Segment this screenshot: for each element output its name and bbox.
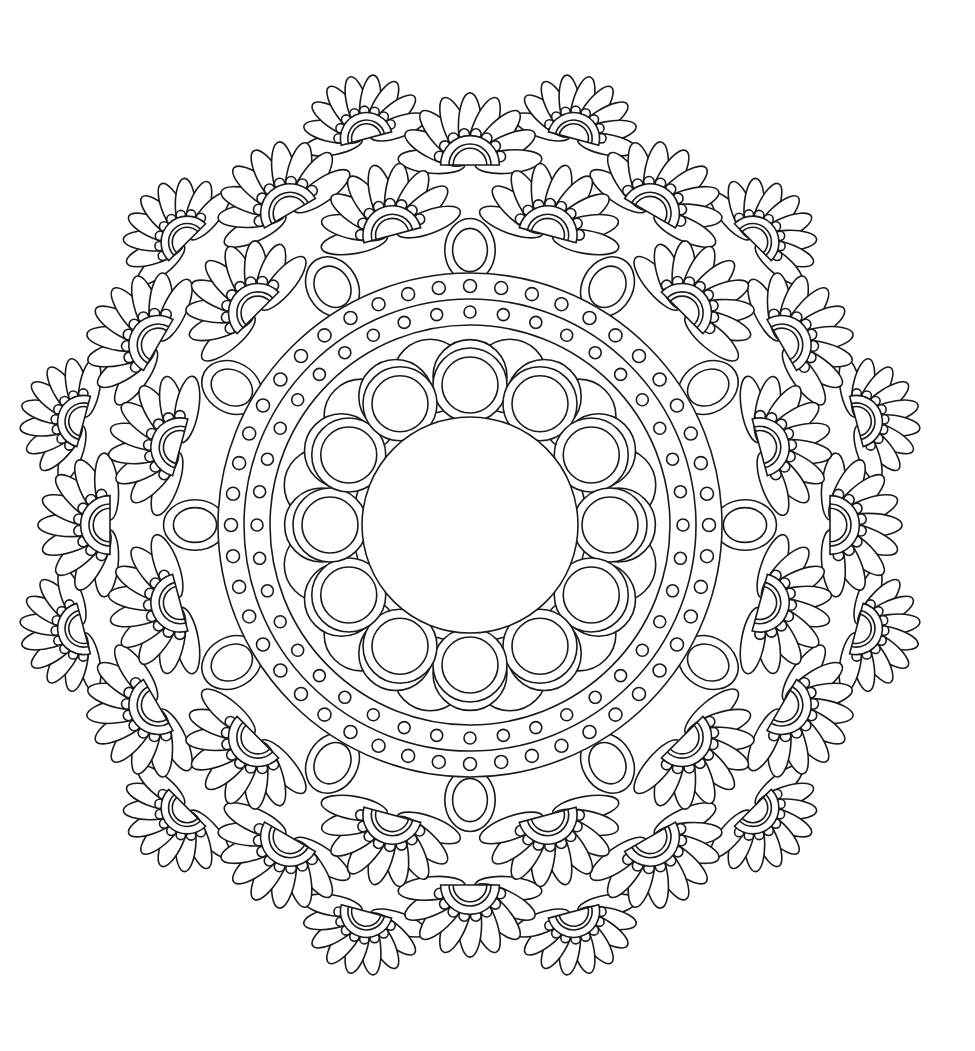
band-dot [295, 687, 308, 700]
band-dot [583, 725, 596, 738]
band-dot [561, 709, 573, 721]
band-dot [609, 708, 622, 721]
band-dot [372, 298, 385, 311]
front-circle-inner [512, 618, 568, 674]
teardrop-inner [453, 778, 488, 821]
band-dot [653, 373, 666, 386]
center-hole [362, 417, 578, 633]
band-dot [589, 347, 601, 359]
band-dot [254, 552, 266, 564]
front-circle-inner [442, 637, 498, 693]
band-dot [677, 519, 689, 531]
band-dot [694, 580, 707, 593]
band-dot [257, 399, 270, 412]
band-dot [313, 670, 325, 682]
band-dot [636, 644, 648, 656]
mandala-canvas [0, 0, 975, 1051]
band-dot [667, 585, 679, 597]
band-dot [670, 638, 683, 651]
band-dot [589, 691, 601, 703]
band-dot [233, 457, 246, 470]
band-dot [243, 610, 256, 623]
band-dot [372, 739, 385, 752]
band-dot [251, 519, 263, 531]
band-dot [495, 282, 508, 295]
scallop [397, 93, 543, 176]
scallop [819, 452, 902, 598]
band-dot [525, 749, 538, 762]
band-dot [398, 722, 410, 734]
scallop [510, 890, 638, 976]
teardrop-inner [173, 508, 216, 543]
band-dot [632, 350, 645, 363]
band-dot [530, 316, 542, 328]
front-circle-inner [563, 427, 619, 483]
scallop [302, 890, 430, 976]
band-dot [694, 457, 707, 470]
band-dot [227, 550, 240, 563]
scallop [19, 357, 105, 485]
band-dot [674, 486, 686, 498]
band-dot [530, 722, 542, 734]
band-dot [233, 580, 246, 593]
band-dot [555, 298, 568, 311]
band-dot [274, 664, 287, 677]
band-dot [318, 708, 331, 721]
band-dot [254, 486, 266, 498]
band-dot [561, 329, 573, 341]
front-circle-inner [321, 567, 377, 623]
band-dot [274, 616, 286, 628]
band-dot [615, 368, 627, 380]
band-dot [261, 585, 273, 597]
front-circle-inner [372, 376, 428, 432]
front-circle-inner [321, 427, 377, 483]
scallop [510, 74, 638, 160]
band-dot [674, 552, 686, 564]
band-dot [497, 729, 509, 741]
band-dot [700, 550, 713, 563]
band-dot [497, 309, 509, 321]
band-dot [344, 725, 357, 738]
band-dot [636, 394, 648, 406]
scallop [835, 565, 921, 693]
band-dot [432, 282, 445, 295]
scallop [19, 565, 105, 693]
band-dot [398, 316, 410, 328]
band-dot [609, 329, 622, 342]
band-dot [313, 368, 325, 380]
band-dot [464, 732, 476, 744]
band-dot [339, 347, 351, 359]
band-dot [431, 729, 443, 741]
band-dot [225, 519, 238, 532]
front-circle-inner [563, 567, 619, 623]
band-dot [632, 687, 645, 700]
scallop [835, 357, 921, 485]
band-dot [464, 758, 477, 771]
mandala-artwork [0, 0, 975, 1051]
front-circle-inner [512, 376, 568, 432]
front-circle-inner [302, 497, 358, 553]
band-dot [432, 755, 445, 768]
scallop [302, 74, 430, 160]
band-dot [684, 610, 697, 623]
scallop [397, 874, 543, 957]
band-dot [367, 329, 379, 341]
front-circle-inner [372, 618, 428, 674]
band-dot [367, 709, 379, 721]
band-dot [654, 616, 666, 628]
band-dot [670, 399, 683, 412]
band-dot [261, 453, 273, 465]
band-dot [257, 638, 270, 651]
band-dot [525, 288, 538, 301]
band-dot [292, 394, 304, 406]
band-dot [583, 312, 596, 325]
band-dot [274, 422, 286, 434]
band-dot [227, 487, 240, 500]
teardrop-inner [453, 228, 488, 271]
band-dot [555, 739, 568, 752]
band-dot [703, 519, 716, 532]
band-dot [339, 691, 351, 703]
center-circle [362, 417, 578, 633]
band-dot [700, 487, 713, 500]
band-dot [243, 427, 256, 440]
